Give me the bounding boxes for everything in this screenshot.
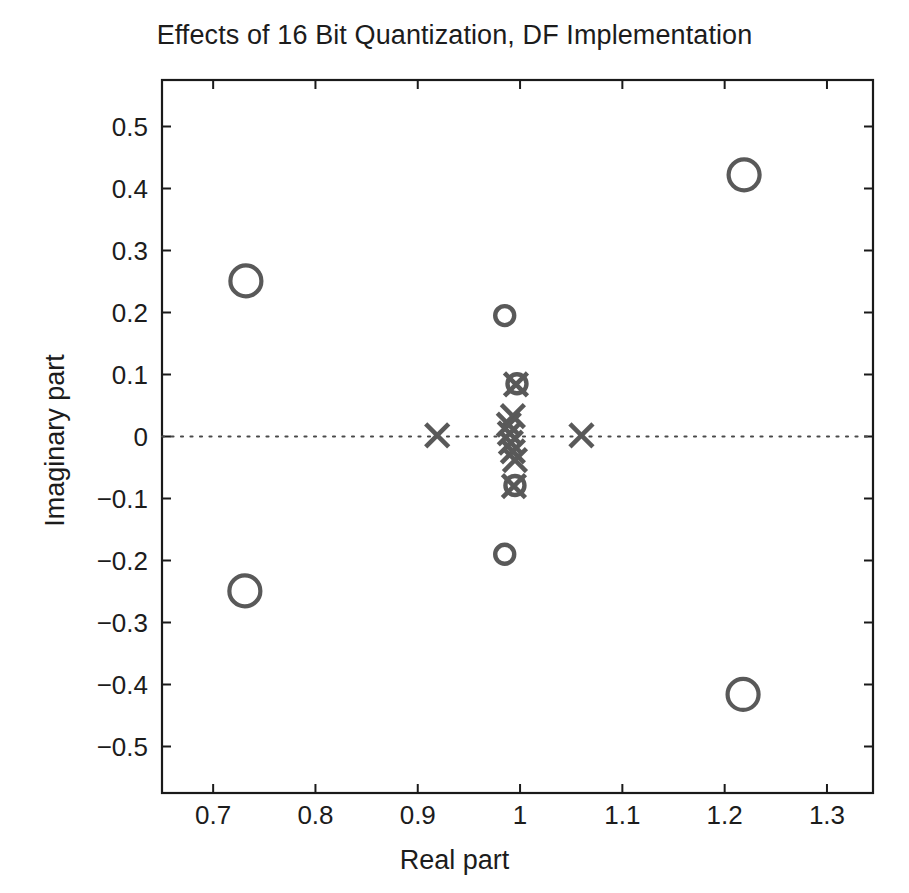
zero-marker-large — [728, 679, 759, 710]
zero-marker-large — [229, 575, 260, 606]
zero-marker-large — [230, 265, 261, 296]
data-markers — [229, 159, 759, 710]
plot-canvas — [0, 0, 909, 893]
zero-marker-small — [495, 306, 514, 325]
zero-marker-small — [495, 545, 514, 564]
pole-marker — [426, 424, 449, 447]
zero-marker-large — [729, 159, 760, 190]
pole-zero-plot-figure: Effects of 16 Bit Quantization, DF Imple… — [0, 0, 909, 893]
pole-marker — [570, 424, 593, 447]
